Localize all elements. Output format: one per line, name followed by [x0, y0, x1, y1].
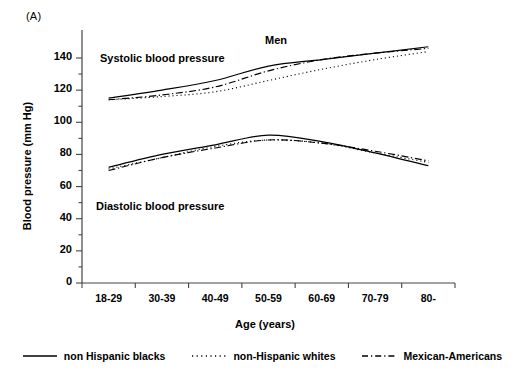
legend-swatch-dotted-icon: [191, 351, 227, 361]
legend-item: non Hispanic blacks: [22, 350, 166, 362]
legend-label: non-Hispanic whites: [233, 350, 335, 362]
y-tick-label: 40: [38, 211, 72, 223]
legend-label: non Hispanic blacks: [64, 350, 166, 362]
y-tick-label: 60: [38, 179, 72, 191]
y-tick-label: 80: [38, 146, 72, 158]
x-tick-label: 70-79: [345, 292, 405, 304]
annotation-group-title: Men: [265, 34, 287, 46]
y-tick-label: 140: [38, 50, 72, 62]
annotation-systolic: Systolic blood pressure: [100, 52, 225, 64]
annotation-diastolic: Diastolic blood pressure: [96, 200, 224, 212]
y-tick-label: 100: [38, 114, 72, 126]
x-tick-label: 30-39: [132, 292, 192, 304]
y-tick-label: 120: [38, 82, 72, 94]
x-axis-title: Age (years): [70, 318, 460, 330]
x-tick-label: 18-29: [79, 292, 139, 304]
y-axis-title: Blood pressure (mm Hg): [21, 76, 33, 256]
x-tick-label: 50-59: [239, 292, 299, 304]
chart-figure: (A) Blood pressure (mm Hg) Age (years) S…: [0, 0, 524, 382]
y-tick-label: 20: [38, 243, 72, 255]
legend-label: Mexican-Americans: [403, 350, 502, 362]
chart-legend: non Hispanic blacks non-Hispanic whites …: [0, 350, 524, 362]
legend-item: non-Hispanic whites: [191, 350, 335, 362]
legend-swatch-solid-icon: [22, 351, 58, 361]
x-tick-label: 40-49: [185, 292, 245, 304]
x-tick-label: 60-69: [292, 292, 352, 304]
legend-swatch-dashdot-icon: [361, 351, 397, 361]
x-tick-label: 80-: [398, 292, 458, 304]
y-tick-label: 0: [38, 275, 72, 287]
legend-item: Mexican-Americans: [361, 350, 502, 362]
